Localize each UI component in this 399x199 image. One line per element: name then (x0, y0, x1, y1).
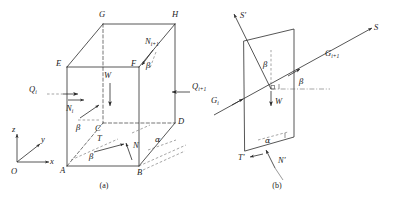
coordinate-axes: z y x O (11, 124, 54, 176)
vertex-label-C: C (95, 123, 101, 133)
angle-label-beta-base-a: β (88, 152, 94, 161)
vertex-label-G: G (99, 9, 105, 19)
angle-alpha-base-a: α (148, 135, 176, 150)
force-Qi1: Qi+1 (172, 81, 206, 92)
angle-label-alpha-base-a: α (155, 135, 161, 144)
angle-label-alpha-base-b: α (265, 136, 271, 145)
angle-label-beta-right-b: β (298, 77, 304, 86)
vertex-label-F: F (130, 58, 137, 68)
axis-label-x: x (49, 156, 54, 166)
force-Gi1: Gi+1 (288, 48, 339, 76)
force-label-S-prime: S′ (240, 10, 246, 20)
force-Qi: Qi (29, 84, 78, 95)
angle-label-beta-upper-b: β (262, 60, 268, 69)
axis-S-prime: S′ (234, 10, 271, 89)
force-label-T-prime: T′ (238, 152, 245, 162)
vertex-label-E: E (55, 58, 62, 68)
force-Gi: Gi (211, 95, 243, 106)
force-T-a: T β (88, 133, 124, 161)
base-forces-b: α T′ N′ (238, 132, 288, 180)
axis-label-origin: O (11, 166, 17, 176)
axis-label-y: y (40, 134, 45, 144)
force-Ni: Ni (65, 100, 84, 114)
force-label-T-a: T (97, 133, 103, 143)
panel-a-caption: (a) (100, 181, 109, 190)
force-label-W-b: W (275, 96, 283, 106)
force-N-a: N (126, 140, 140, 160)
panel-b-caption: (b) (272, 181, 282, 190)
force-label-Qi: Qi (29, 84, 37, 95)
figure-canvas: A B C D E F G H W Qi Ni (0, 0, 399, 199)
force-W-a: W (104, 70, 112, 106)
angle-label-beta-left-a: β (75, 123, 81, 132)
force-label-S: S (374, 22, 379, 32)
force-label-N-prime: N′ (277, 155, 286, 165)
diagram-svg: A B C D E F G H W Qi Ni (0, 0, 399, 199)
force-label-Gi: Gi (211, 95, 219, 106)
force-label-Ni: Ni (65, 103, 74, 114)
vertex-label-A: A (59, 165, 66, 175)
force-W-b: W (271, 91, 283, 106)
force-label-Qi1: Qi+1 (192, 81, 206, 92)
vertex-label-D: D (177, 116, 185, 126)
panel-b: S′ S Gi Gi+1 β (211, 10, 379, 190)
base-reference-lines (71, 125, 186, 170)
vertex-label-H: H (171, 9, 179, 19)
force-label-Ni1: Ni+1 (144, 36, 159, 47)
panel-a: A B C D E F G H W Qi Ni (11, 9, 206, 190)
axis-label-z: z (11, 124, 16, 134)
angle-label-beta-right-a: β (145, 61, 151, 70)
force-label-W-a: W (104, 70, 112, 80)
vertex-label-B: B (137, 167, 142, 177)
